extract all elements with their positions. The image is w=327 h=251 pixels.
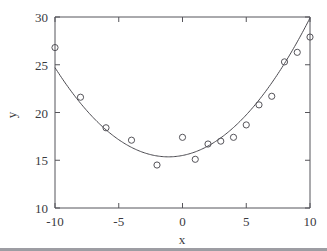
scatter-plot: -10-50510 1015202530 x y — [0, 0, 327, 251]
data-point — [77, 94, 83, 100]
data-point — [154, 162, 160, 168]
y-axis-ticks — [55, 17, 310, 208]
axes-frame — [55, 17, 310, 208]
x-axis-ticks — [55, 17, 310, 208]
data-point — [179, 134, 185, 140]
x-axis-tick-labels: -10-50510 — [46, 214, 316, 229]
data-point — [294, 49, 300, 55]
x-tick-label--10: -10 — [46, 214, 63, 229]
y-axis-title: y — [4, 111, 19, 118]
x-tick-label--5: -5 — [113, 214, 124, 229]
data-point — [218, 138, 224, 144]
data-point — [128, 137, 134, 143]
x-axis-title: x — [179, 232, 186, 247]
data-point — [230, 134, 236, 140]
fitted-curve — [55, 18, 310, 157]
y-axis-tick-labels: 1015202530 — [35, 10, 48, 216]
y-tick-label-25: 25 — [35, 58, 48, 73]
y-tick-label-15: 15 — [35, 153, 48, 168]
y-tick-label-30: 30 — [35, 10, 48, 25]
data-point — [192, 156, 198, 162]
x-tick-label-5: 5 — [243, 214, 250, 229]
data-point — [256, 102, 262, 108]
figure-container: -10-50510 1015202530 x y — [0, 0, 327, 251]
data-point — [269, 93, 275, 99]
x-tick-label-10: 10 — [304, 214, 317, 229]
data-point-group — [52, 34, 313, 168]
x-tick-label-0: 0 — [179, 214, 186, 229]
data-point — [243, 122, 249, 128]
y-tick-label-10: 10 — [35, 201, 48, 216]
y-tick-label-20: 20 — [35, 106, 48, 121]
